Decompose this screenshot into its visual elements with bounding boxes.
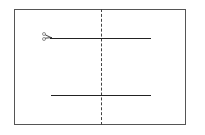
cut-line-bottom	[51, 95, 151, 96]
cut-line-top	[50, 38, 151, 39]
fold-line-dashed	[101, 9, 102, 125]
scissors-icon	[42, 32, 53, 41]
paper-sheet	[14, 9, 186, 125]
